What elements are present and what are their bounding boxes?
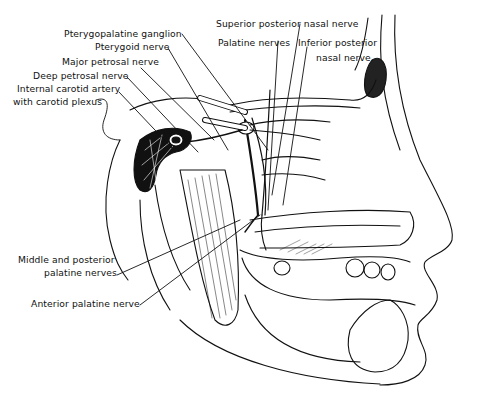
tooth [381,264,395,280]
label-inferior-posterior-nasal: Inferior posterior [298,37,377,48]
label-superior-posterior-nasal-nerve: Superior posterior nasal nerve [216,18,359,29]
frontal-sinus [365,58,387,97]
label-deep-petrosal-nerve: Deep petrosal nerve [33,70,129,81]
label-middle-posterior-palatine: Middle and posterior [18,254,115,265]
label-internal-carotid-artery: Internal carotid artery [17,83,120,94]
label-palatine-nerves: Palatine nerves [218,37,290,48]
face-profile [380,15,452,385]
tooth [364,262,380,278]
label-carotid-plexus: with carotid plexus [13,96,102,107]
label-pterygopalatine-ganglion: Pterygopalatine ganglion [64,28,182,39]
label-middle-posterior-palatine-2: palatine nerves [44,267,117,278]
mandible [348,300,408,372]
tooth [274,261,290,275]
label-inferior-posterior-nasal-2: nasal nerve [316,52,371,63]
label-anterior-palatine-nerve: Anterior palatine nerve [31,298,140,309]
tongue [240,250,410,262]
tooth [346,259,364,277]
label-major-petrosal-nerve: Major petrosal nerve [62,56,159,67]
anatomy-figure: Pterygopalatine ganglion Pterygoid nerve… [0,0,489,402]
label-pterygoid-nerve: Pterygoid nerve [95,41,170,52]
